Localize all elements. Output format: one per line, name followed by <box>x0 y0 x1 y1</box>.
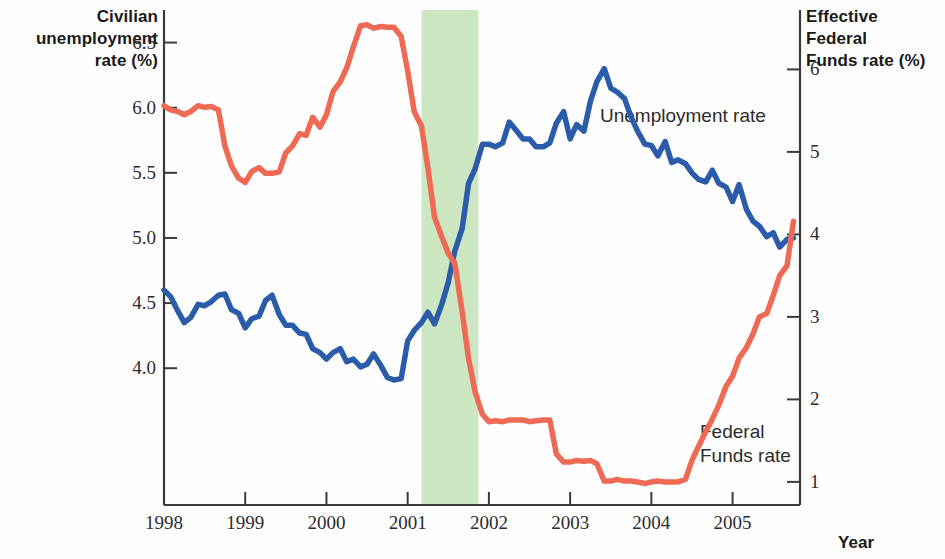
y-tick-label-right: 6 <box>810 58 850 80</box>
x-tick-label: 2005 <box>693 512 773 534</box>
x-tick-label: 2003 <box>530 512 610 534</box>
x-tick-label: 1998 <box>124 512 204 534</box>
y-tick-label-right: 5 <box>810 141 850 163</box>
y-tick-label-left: 4.5 <box>96 292 156 314</box>
series-line-federal-funds-rate <box>164 25 794 484</box>
x-tick-label: 2000 <box>286 512 366 534</box>
series-line-unemployment-rate <box>164 69 794 380</box>
x-tick-label: 2002 <box>449 512 529 534</box>
y-tick-label-left: 5.5 <box>96 162 156 184</box>
y-tick-label-left: 6.0 <box>96 97 156 119</box>
y-tick-label-right: 2 <box>810 388 850 410</box>
data-series <box>164 25 794 484</box>
y-tick-label-left: 4.0 <box>96 357 156 379</box>
x-tick-label: 1999 <box>205 512 285 534</box>
y-tick-label-left: 5.0 <box>96 227 156 249</box>
y-tick-label-left: 6.5 <box>96 32 156 54</box>
chart-figure: Civilian unemployment rate (%) Effective… <box>0 0 945 559</box>
plot-area <box>0 0 945 559</box>
y-tick-label-right: 1 <box>810 471 850 493</box>
x-tick-label: 2004 <box>611 512 691 534</box>
y-tick-label-right: 3 <box>810 306 850 328</box>
x-tick-label: 2001 <box>368 512 448 534</box>
y-tick-label-right: 4 <box>810 223 850 245</box>
